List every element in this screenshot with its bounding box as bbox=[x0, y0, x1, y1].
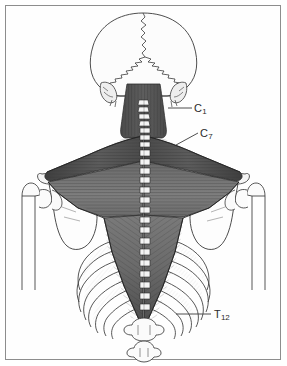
vertebra-label-c7: C7 bbox=[200, 128, 213, 139]
anatomy-illustration bbox=[0, 0, 287, 366]
vertebra-label-c1-subscript: 1 bbox=[202, 107, 206, 116]
leader-line-c7 bbox=[176, 133, 198, 145]
vertebra-label-c7-subscript: 7 bbox=[208, 132, 212, 141]
lumbar-vertebrae bbox=[124, 318, 164, 362]
humerus-left bbox=[22, 183, 52, 290]
vertebra-label-t12: T12 bbox=[214, 309, 230, 320]
vertebra-label-t12-subscript: 12 bbox=[221, 313, 230, 322]
vertebra-label-c7-letter: C bbox=[200, 127, 208, 139]
humerus-right bbox=[235, 183, 265, 290]
vertebra-label-t12-letter: T bbox=[214, 308, 221, 320]
figure-root: C1 C7 T12 bbox=[0, 0, 287, 366]
vertebra-label-c1: C1 bbox=[194, 103, 207, 114]
vertebra-label-c1-letter: C bbox=[194, 102, 202, 114]
